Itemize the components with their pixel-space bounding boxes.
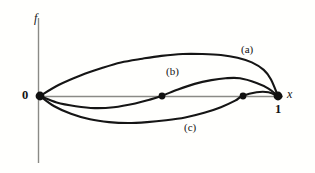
curve-c-axis-crossing-dot	[240, 93, 247, 100]
figure-container: f x 0 1 (a) (b) (c)	[0, 0, 315, 173]
origin-point-dot	[36, 92, 45, 101]
right-tick-label: 1	[275, 103, 281, 116]
curve-b-label: (b)	[166, 66, 179, 77]
curve-b-axis-crossing-dot	[159, 93, 166, 100]
curve-c-label: (c)	[184, 122, 196, 133]
y-axis-label: f	[34, 12, 37, 24]
curve-a-path	[40, 54, 278, 96]
origin-tick-label: 0	[22, 89, 28, 102]
x-axis-label: x	[287, 88, 292, 100]
endpoint-one-dot	[274, 92, 283, 101]
curve-a-label: (a)	[241, 44, 253, 55]
plot-canvas	[0, 0, 315, 173]
